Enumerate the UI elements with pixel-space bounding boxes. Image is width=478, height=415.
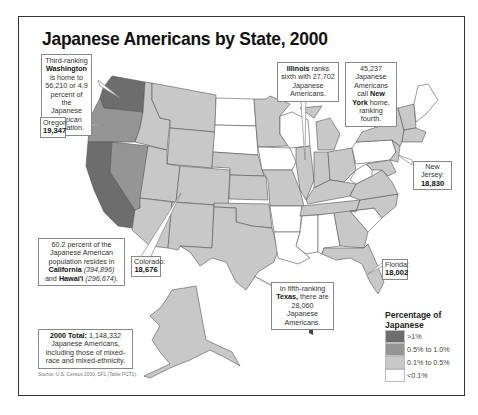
map-legend: Percentage of Japanese >1% 0.5% to 1.0% … [385, 311, 450, 382]
california-hawaii-callout: 60.2 percent of the Japanese American po… [38, 238, 125, 286]
colorado-callout: Colorado: 18,676 [131, 256, 161, 277]
legend-swatch [385, 356, 405, 369]
legend-item: 0.1% to 0.5% [385, 356, 450, 369]
state-wyoming[interactable] [167, 128, 215, 168]
state-maine[interactable] [414, 84, 438, 122]
state-massachusetts-ct-ri[interactable] [402, 128, 426, 142]
legend-item: >1% [385, 330, 450, 343]
legend-swatch [385, 330, 405, 343]
oregon-callout: Oregon: 19,347 [40, 117, 66, 138]
legend-swatch [385, 369, 405, 382]
state-colorado[interactable] [176, 166, 230, 206]
new-york-callout: 45,237 Japanese Americans call New York … [345, 62, 397, 127]
total-callout: 2000 Total: 1,148,332 Japanese Americans… [38, 329, 133, 369]
legend-title: Percentage of Japanese [385, 311, 445, 330]
new-jersey-callout: New Jersey: 18,830 [413, 161, 452, 190]
newjersey-leader [398, 155, 412, 165]
state-kentucky[interactable] [306, 180, 356, 204]
legend-item: <0.1% [385, 369, 450, 382]
state-new-mexico[interactable] [168, 202, 214, 250]
state-iowa[interactable] [258, 147, 296, 170]
hawaii-label: Hawai'i [59, 274, 83, 283]
texas-callout: In fifth-ranking Texas, there are 28,060… [271, 282, 334, 330]
state-north-dakota[interactable] [215, 98, 256, 126]
state-kansas[interactable] [229, 175, 268, 200]
source-note: Source: U.S. Census 2000, SF1 (Table PCT… [38, 372, 137, 377]
legend-swatch [385, 343, 405, 356]
legend-item: 0.5% to 1.0% [385, 343, 450, 356]
state-washington[interactable] [100, 76, 145, 112]
illinois-callout: Illinois ranks sixth with 27,702 Japanes… [277, 62, 339, 102]
state-south-dakota[interactable] [213, 125, 258, 155]
state-alaska[interactable] [144, 286, 240, 378]
state-arkansas[interactable] [270, 206, 302, 232]
florida-callout: Florida: 18,002 [382, 259, 408, 280]
